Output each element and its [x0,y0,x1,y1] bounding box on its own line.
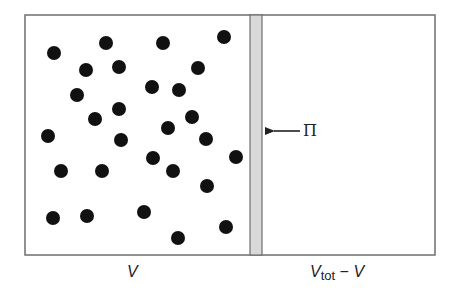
particle [200,179,214,193]
particle [172,83,186,97]
particle [79,63,93,77]
particle [156,36,170,50]
particle [54,164,68,178]
particle [145,80,159,94]
particle [217,30,231,44]
particle [46,211,60,225]
right-label-main: V [310,263,321,280]
particle [99,36,113,50]
right-chamber-label: Vtot − V [310,263,364,283]
particle [146,151,160,165]
particle [41,129,55,143]
particle [199,132,213,146]
particle [112,102,126,116]
right-label-sub: tot [321,268,335,283]
particle [229,150,243,164]
particle [114,133,128,147]
right-label-rest-minus: − [335,263,353,280]
right-label-rest-v: V [353,263,364,280]
left-chamber-label: V [127,263,138,281]
particle [88,112,102,126]
particle [80,209,94,223]
particle [185,110,199,124]
osmosis-diagram [0,0,456,298]
particle [47,46,61,60]
semipermeable-membrane [250,15,262,255]
pressure-label: Π [303,121,317,140]
particle [112,60,126,74]
particle [95,164,109,178]
particle [137,205,151,219]
particle [166,164,180,178]
particle [161,121,175,135]
particle [219,220,233,234]
particle [191,61,205,75]
particle [70,88,84,102]
particle [171,231,185,245]
